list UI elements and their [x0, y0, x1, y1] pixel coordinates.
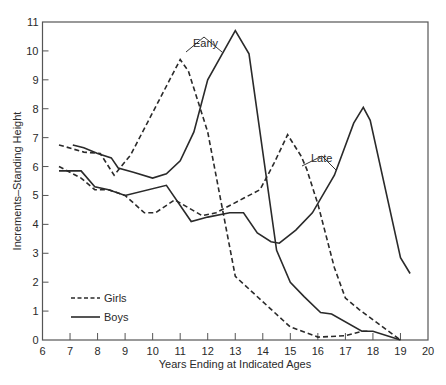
- x-tick-label: 16: [312, 345, 324, 357]
- y-tick-label: 10: [26, 45, 38, 57]
- y-tick-label: 8: [32, 103, 38, 115]
- x-tick-label: 14: [257, 345, 269, 357]
- annotation-late: Late: [311, 152, 332, 164]
- x-tick-label: 11: [174, 345, 185, 357]
- x-tick-label: 13: [229, 345, 241, 357]
- x-tick-label: 19: [394, 345, 406, 357]
- x-tick-label: 7: [67, 345, 73, 357]
- series-line-3: [59, 107, 410, 273]
- y-tick-label: 0: [32, 334, 38, 346]
- legend-boys-label: Boys: [104, 311, 129, 323]
- x-axis-title: Years Ending at Indicated Ages: [159, 358, 312, 370]
- y-tick-label: 3: [32, 247, 38, 259]
- annotations: Early Late: [186, 37, 336, 170]
- x-tick-label: 20: [422, 345, 434, 357]
- y-tick-label: 1: [32, 305, 38, 317]
- y-tick-label: 5: [32, 189, 38, 201]
- x-tick-label: 6: [39, 345, 45, 357]
- x-tick-label: 12: [202, 345, 214, 357]
- x-tick-label: 10: [147, 345, 159, 357]
- x-tick-label: 18: [367, 345, 379, 357]
- x-tick-label: 15: [284, 345, 296, 357]
- x-tick-label: 8: [95, 345, 101, 357]
- y-tick-label: 7: [32, 132, 38, 144]
- x-tick-label: 9: [122, 345, 128, 357]
- y-tick-label: 6: [32, 161, 38, 173]
- y-tick-label: 11: [27, 16, 38, 28]
- x-axis: 67891011121314151617181920: [39, 333, 434, 357]
- y-tick-label: 4: [32, 218, 38, 230]
- legend: Girls Boys: [71, 292, 129, 323]
- line-chart: 01234567891011 6789101112131415161718192…: [0, 0, 446, 385]
- y-tick-label: 2: [32, 276, 38, 288]
- x-tick-label: 17: [339, 345, 351, 357]
- y-axis-title: Increments–Standing Height: [11, 112, 23, 251]
- series-line-2: [59, 135, 401, 340]
- plot-frame: [43, 22, 429, 340]
- legend-girls-label: Girls: [104, 292, 127, 304]
- y-tick-label: 9: [32, 74, 38, 86]
- y-axis: 01234567891011: [26, 16, 48, 346]
